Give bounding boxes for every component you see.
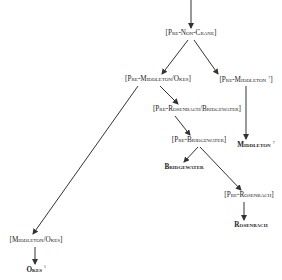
edge-pre-non-crane-to-pre-middleton [194,40,218,74]
edge-pre-bridgewater-to-bridgewater [184,147,198,162]
node-pre-rosenbach: [Pre-Rosenbach] [224,192,273,199]
node-pre-middleton: [Pre-Middleton?] [219,76,272,84]
edge-pre-bridgewater-to-pre-rosenbach [200,147,241,190]
node-pre-rosenbach-bridgewater: [Pre-Rosenbach/Bridgewater] [153,106,241,113]
node-label: Middleton [237,141,270,149]
edge-pre-middleton-okes-to-pre-rosenbach-bridgewater [160,86,178,104]
stemma-diagram: [Pre-Non-Crane] [Pre-Middleton/Okes] [Pr… [0,0,282,280]
node-label: Bridgewater [164,163,203,171]
node-bridgewater: Bridgewater [164,164,203,171]
node-rosenbach: Rosenbach [234,222,267,229]
node-label: [Pre-Rosenbach] [224,191,273,199]
node-label: Rosenbach [234,221,267,229]
node-label: Okes [27,266,43,274]
footnote-mark: ¹ [44,265,45,270]
node-pre-non-crane: [Pre-Non-Crane] [166,30,217,37]
node-label: [Pre-Middleton [219,76,266,84]
node-label: [Middleton/Okes] [10,236,63,244]
node-label: [Pre-Bridgewater] [172,136,226,144]
edge-pre-non-crane-to-pre-middleton-okes [162,40,188,74]
uncertainty-mark: ? [273,140,275,145]
node-pre-bridgewater: [Pre-Bridgewater] [172,137,226,144]
node-okes: Okes¹ [27,266,46,274]
bracket-close: ] [270,76,272,84]
node-middleton-okes: [Middleton/Okes] [10,237,63,244]
node-middleton: Middleton? [237,141,274,149]
node-label: [Pre-Middleton/Okes] [125,75,191,83]
node-label: [Pre-Non-Crane] [166,29,217,37]
node-pre-middleton-okes: [Pre-Middleton/Okes] [125,76,191,83]
edge-pre-rosenbach-bridgewater-to-pre-bridgewater [175,116,190,135]
node-label: [Pre-Rosenbach/Bridgewater] [153,105,241,113]
edge-pre-middleton-okes-to-middleton-okes [33,86,138,234]
